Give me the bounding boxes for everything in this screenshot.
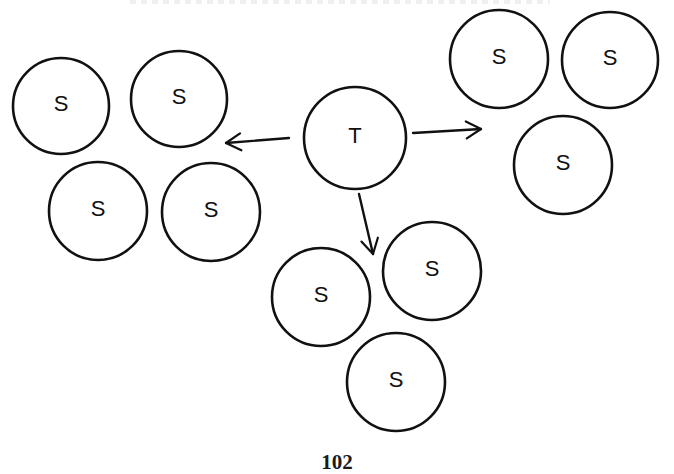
node-label: S [603,45,618,70]
left-group-node-3: S [49,162,147,260]
node-label: S [492,44,507,69]
node-label: S [172,84,187,109]
node-label: S [204,197,219,222]
bottom-group-node-3: S [347,333,445,431]
left-group-node-2: S [131,51,227,147]
center-node-t: T [304,87,406,189]
right-group-node-2: S [562,12,658,108]
arrow-to-bottom-group [359,194,378,254]
node-label: T [348,123,361,148]
bottom-group-node-1: S [272,248,370,346]
node-label: S [389,367,404,392]
bottom-group-node-2: S [383,222,481,320]
node-label: S [556,150,571,175]
arrow-to-right-group [413,121,481,138]
nodes: SSSSSSSSSST [13,10,658,431]
right-group-node-1: S [450,10,548,108]
left-group-node-1: S [13,58,109,154]
arrow-shaft [413,129,481,133]
arrow-shaft [226,138,289,143]
page-number: 102 [0,450,674,474]
diagram-canvas: SSSSSSSSSST [0,0,674,474]
right-group-node-3: S [514,116,612,214]
node-label: S [314,282,329,307]
node-label: S [91,196,106,221]
arrow-to-left-group [226,133,289,150]
node-label: S [54,91,69,116]
left-group-node-4: S [162,163,260,261]
node-label: S [425,256,440,281]
